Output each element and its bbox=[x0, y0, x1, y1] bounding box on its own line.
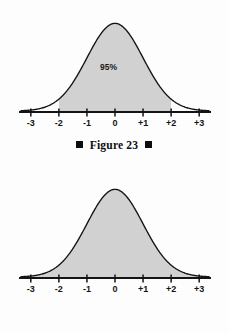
tick-label-+1: +1 bbox=[133, 284, 153, 294]
tick-label-+3: +3 bbox=[189, 118, 209, 128]
figure-24-shaded-area bbox=[21, 189, 209, 277]
figure-23-percent-label: 95% bbox=[100, 62, 117, 72]
document-page: 95% -3-2-10+1+2+3 Figure 23 99.7% -3-2-1… bbox=[0, 0, 228, 333]
figure-23-block: 95% -3-2-10+1+2+3 Figure 23 bbox=[0, 0, 228, 165]
caption-square-left-icon bbox=[76, 141, 83, 148]
tick-label-+1: +1 bbox=[133, 118, 153, 128]
figure-24-chart-svg bbox=[0, 165, 228, 300]
figure-24-block: 99.7% -3-2-10+1+2+3 Figure 24 bbox=[0, 165, 228, 333]
figure-23-x-axis bbox=[19, 109, 211, 117]
figure-23-caption-text: Figure 23 bbox=[90, 139, 139, 151]
tick-label--3: -3 bbox=[21, 284, 41, 294]
tick-label-+3: +3 bbox=[189, 284, 209, 294]
figure-23-plot: 95% -3-2-10+1+2+3 bbox=[0, 0, 228, 135]
caption-square-right-icon bbox=[145, 141, 152, 148]
figure-23-caption: Figure 23 bbox=[0, 138, 228, 151]
figure-24-plot: 99.7% -3-2-10+1+2+3 bbox=[0, 165, 228, 300]
tick-label--2: -2 bbox=[49, 284, 69, 294]
tick-label--1: -1 bbox=[77, 118, 97, 128]
tick-label-+2: +2 bbox=[161, 284, 181, 294]
tick-label-0: 0 bbox=[105, 118, 125, 128]
tick-label-0: 0 bbox=[105, 284, 125, 294]
tick-label--3: -3 bbox=[21, 118, 41, 128]
tick-label-+2: +2 bbox=[161, 118, 181, 128]
tick-label--2: -2 bbox=[49, 118, 69, 128]
tick-label--1: -1 bbox=[77, 284, 97, 294]
